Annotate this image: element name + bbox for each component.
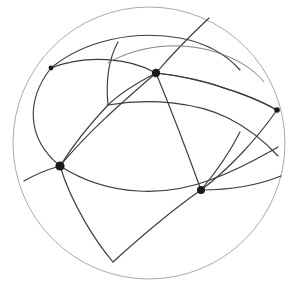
spherical-graph-svg [0, 0, 301, 289]
vertex-v-right [274, 107, 280, 113]
vertex-v-upper-left [49, 66, 54, 71]
figure-container [0, 0, 301, 289]
figure-background [0, 0, 301, 289]
vertex-v-left [55, 161, 64, 170]
vertex-v-top [152, 69, 160, 77]
vertex-v-lower-right [197, 186, 205, 194]
